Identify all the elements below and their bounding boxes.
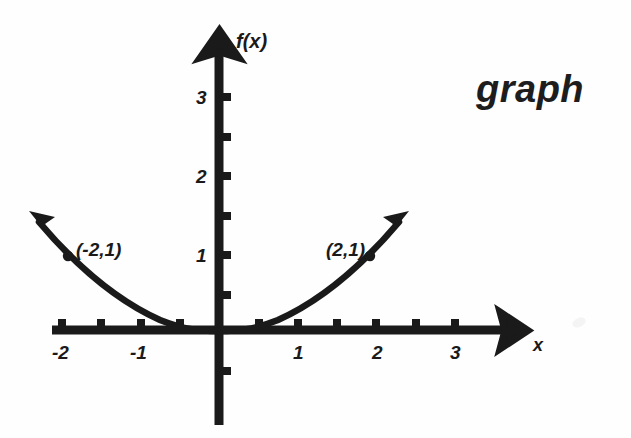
point-label-neg2-1: (-2,1) xyxy=(76,240,121,259)
x-axis-label: x xyxy=(533,336,543,354)
y-axis-label: f(x) xyxy=(236,31,267,51)
point-label-2-1: (2,1) xyxy=(326,240,365,259)
y-tick-label-1: 1 xyxy=(196,246,207,265)
y-tick-label-2: 2 xyxy=(196,167,207,186)
x-axis-arrowhead xyxy=(500,312,528,349)
y-tick-label-3: 3 xyxy=(196,88,207,107)
graph-figure: -2 -1 1 2 3 1 2 3 f(x) x (-2,1) (2,1) gr… xyxy=(0,0,631,438)
figure-title: graph xyxy=(476,68,584,111)
x-tick-label-1: 1 xyxy=(293,343,304,362)
y-axis-arrowhead xyxy=(200,30,239,58)
x-tick-label-2: 2 xyxy=(372,343,383,362)
x-tick-label--2: -2 xyxy=(52,343,69,362)
point-marker-neg2-1 xyxy=(63,251,73,261)
x-tick-label-3: 3 xyxy=(450,343,461,362)
x-tick-label--1: -1 xyxy=(130,343,147,362)
point-marker-2-1 xyxy=(365,251,375,261)
coordinate-plane-drawing xyxy=(0,0,631,438)
